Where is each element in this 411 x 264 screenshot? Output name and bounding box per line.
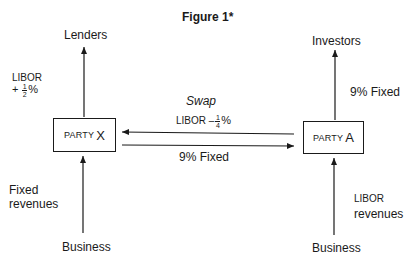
investors-label: Investors	[312, 34, 361, 48]
partyx-payment-sign: +	[12, 83, 18, 95]
party-x-prefix: PARTY	[64, 130, 94, 140]
partyx-payment-label: LIBOR + 12 %	[12, 72, 42, 98]
party-x-letter: X	[96, 128, 105, 143]
party-a-box: PARTY A	[303, 121, 364, 154]
arrow-swap-x-to-a	[122, 145, 294, 146]
arrow-swap-a-to-x	[122, 132, 294, 134]
partya-payment-label: 9% Fixed	[350, 85, 400, 99]
swap-libor-label: LIBOR –14%	[176, 114, 231, 129]
swap-title: Swap	[186, 94, 216, 108]
fraction-one-half: 12	[22, 83, 27, 98]
partyx-payment-line1: LIBOR	[12, 72, 42, 83]
swap-fixed-label: 9% Fixed	[179, 150, 229, 164]
partya-business-label: Business	[312, 241, 361, 255]
party-a-letter: A	[345, 130, 354, 145]
figure-title: Figure 1*	[182, 10, 233, 24]
partya-revenue-label: LIBOR revenues	[354, 190, 403, 221]
party-x-box: PARTY X	[53, 118, 116, 152]
fraction-one-quarter: 14	[215, 114, 220, 129]
lenders-label: Lenders	[64, 28, 107, 42]
partyx-business-label: Business	[62, 240, 111, 254]
party-a-prefix: PARTY	[313, 133, 343, 143]
partyx-revenue-label: Fixed revenues	[9, 183, 58, 211]
